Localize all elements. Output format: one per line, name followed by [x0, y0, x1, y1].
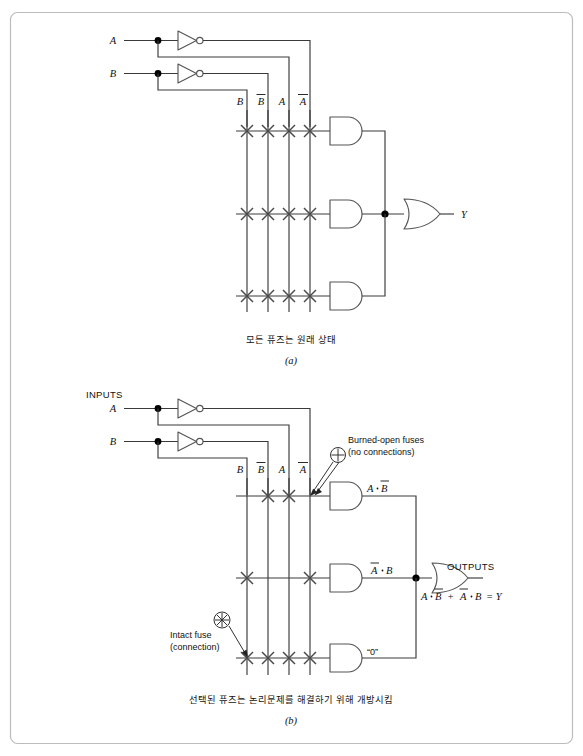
panel-b-caption: 선택된 퓨즈는 논리문제를 해결하기 위해 개방시킴	[189, 694, 393, 705]
panel-b-eq-term2-right: B	[475, 591, 482, 602]
panel-a-column-label-1: B	[258, 96, 265, 107]
panel-b-and-gate-1	[330, 564, 362, 592]
panel-b-and-gate-2	[330, 644, 362, 672]
panel-b-and-gate-0	[330, 482, 362, 510]
panel-b-column-label-3: A	[299, 464, 307, 475]
panel-b-product-0-left: A	[366, 483, 374, 494]
panel-a-input-a-label: A	[109, 35, 117, 46]
panel-b-and-row-1: A B	[236, 563, 432, 592]
panel-b-input-a-label: A	[109, 403, 117, 414]
panel-b-caption-letter: (b)	[285, 715, 298, 727]
panel-a-and-gate-0-output	[362, 131, 385, 214]
panel-a-and-gate-2	[330, 282, 362, 310]
annotation-intact-line1: Intact fuse	[170, 630, 212, 640]
panel-b-inputs-header: INPUTS	[86, 389, 123, 400]
panel-a-inverter-a	[178, 31, 197, 50]
panel-b-inverter-a	[178, 399, 197, 418]
panel-b-product-2-label: “0”	[367, 647, 378, 657]
annotation-intact-fuse: Intact fuse (connection)	[170, 612, 248, 658]
panel-b-product-1-right: B	[386, 565, 393, 576]
figure-border	[11, 13, 573, 744]
panel-a-and-gate-1	[330, 200, 362, 228]
panel-b-output-equation: A B + A B = Y	[420, 589, 503, 602]
panel-b-input-a: A	[109, 399, 310, 495]
panel-a-and-row-1	[236, 200, 404, 228]
panel-b-product-0-label: A B	[366, 481, 389, 494]
panel-a: A B B B A	[109, 31, 468, 367]
annotation-intact-line2: (connection)	[170, 642, 220, 652]
annotation-burned-open-line2: (no connections)	[348, 447, 415, 457]
panel-b-abar-route	[203, 409, 310, 496]
panel-b-and-gate-2-output	[362, 578, 416, 658]
burned-open-leader-2	[318, 463, 339, 491]
panel-a-a-route	[158, 41, 289, 128]
eq-dot-1	[431, 596, 433, 598]
panel-a-and-gate-0	[330, 117, 362, 145]
panel-b-a-route	[158, 409, 289, 496]
intact-fuse-leader	[229, 626, 245, 653]
panel-a-output-label: Y	[461, 209, 468, 220]
panel-b-product-1-left: A	[370, 565, 378, 576]
panel-a-inverter-b-bubble	[197, 70, 203, 76]
panel-a-inverter-b	[178, 64, 197, 83]
panel-a-inverter-a-bubble	[197, 37, 203, 43]
panel-a-or-gate-group: Y	[404, 199, 468, 229]
panel-a-caption: 모든 퓨즈는 원래 상태	[246, 334, 336, 345]
panel-b-inverter-a-bubble	[197, 405, 203, 411]
panel-b-column-label-2: A	[278, 464, 286, 475]
panel-b-eq-term2-left: A	[459, 591, 467, 602]
figure-page: A B B B A	[0, 0, 583, 756]
panel-b-inverter-b	[178, 432, 197, 451]
panel-b-input-b-label: B	[110, 436, 117, 447]
panel-b-column-label-0: B	[237, 464, 244, 475]
panel-b-and-row-0: A B	[236, 481, 416, 578]
panel-a-column-label-0: B	[237, 96, 244, 107]
panel-a-and-gate-2-output	[362, 214, 385, 296]
panel-b-column-label-1: B	[258, 464, 265, 475]
panel-b-inverter-b-bubble	[197, 438, 203, 444]
panel-b: INPUTS A B B B A A	[86, 389, 503, 727]
panel-a-abar-route	[203, 41, 310, 128]
panel-a-column-label-2: A	[278, 96, 286, 107]
panel-a-column-label-3: A	[299, 96, 307, 107]
panel-a-column-lines	[247, 110, 310, 312]
panel-b-eq-term1-right: B	[435, 591, 442, 602]
panel-a-b-route	[158, 74, 247, 128]
product-1-dot-operator	[382, 570, 384, 572]
panel-b-product-1-label: A B	[370, 563, 393, 576]
panel-b-or-gate-group: OUTPUTS A B + A B = Y	[420, 561, 503, 602]
panel-a-input-a: A	[109, 31, 310, 127]
panel-a-or-gate	[404, 199, 440, 229]
panel-b-product-0-right: B	[381, 483, 388, 494]
panel-a-caption-letter: (a)	[285, 355, 298, 367]
panel-b-eq-plus: +	[447, 591, 454, 602]
panel-b-outputs-header: OUTPUTS	[447, 561, 495, 572]
eq-dot-2	[471, 596, 473, 598]
panel-b-b-route	[158, 442, 247, 496]
panel-b-input-b: B	[110, 432, 268, 495]
product-0-dot-operator	[377, 488, 379, 490]
panel-b-column-lines	[247, 478, 310, 675]
panel-b-eq-term1-left: A	[420, 591, 428, 602]
panel-a-input-b-label: B	[110, 68, 117, 79]
panel-b-and-row-2: “0”	[236, 578, 416, 672]
panel-a-input-b: B	[110, 64, 268, 127]
annotation-burned-open-line1: Burned-open fuses	[348, 435, 425, 445]
panel-b-eq-equals: = Y	[486, 591, 503, 602]
